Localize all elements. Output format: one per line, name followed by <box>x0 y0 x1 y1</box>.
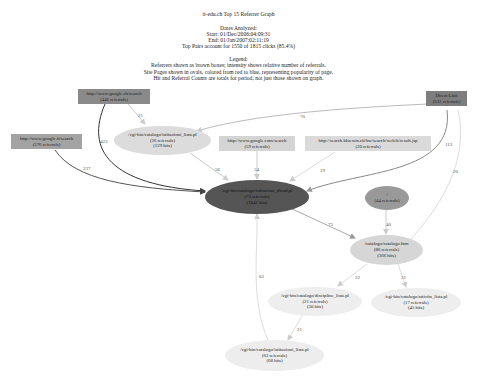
edge-label: 423 <box>100 139 108 144</box>
edge-label: 22 <box>355 275 360 280</box>
edge-label: 56 <box>215 167 220 172</box>
edge-label: 54 <box>254 167 259 172</box>
referrer-google-com[interactable]: http://www.google.com/search (59 referra… <box>219 136 295 151</box>
page-attivita-lista[interactable]: /cgi-bin/catalogo/attivita_lista.pl (17 … <box>371 288 461 317</box>
edge-direct-to-catalogo <box>404 110 461 246</box>
page-discipline-lista[interactable]: /cgi-bin/catalogo/discipline_lista.pl (2… <box>268 287 362 316</box>
edge-label: 113 <box>445 142 452 147</box>
referrer-count: (531 referrals) <box>433 99 461 105</box>
page-istituzioni-dicad[interactable]: /cgi-bin/catalogo/istituzioni_dicad.pl (… <box>205 180 309 214</box>
edge-catalogo-to-discipline <box>338 264 367 286</box>
referrer-google-it[interactable]: http://www.google.it/search (276 referra… <box>11 134 82 149</box>
referrer-google-ch[interactable]: http://www.google.ch/search (446 referra… <box>78 89 150 104</box>
edge-label: 73 <box>328 222 333 227</box>
page-root[interactable]: / (44 referrals) <box>365 186 409 210</box>
edge-istituzioni-lista-to-dicad <box>190 153 228 180</box>
page-hits: (45 hits) <box>408 305 424 311</box>
edge-direct-to-istituzioni-lista <box>197 104 428 131</box>
referrer-count: (59 referrals) <box>244 144 269 150</box>
referrer-count: (446 referrals) <box>100 97 128 103</box>
page-hits: (30 hits) <box>307 304 323 310</box>
page-hits: (68 hits) <box>266 358 282 364</box>
page-istituzioni-lista[interactable]: /cgi-bin/catalogo/istituzioni_lista.pl (… <box>114 126 211 155</box>
edge-label: 62 <box>259 274 264 279</box>
referrer-direct-link[interactable]: Direct Link (531 referrals) <box>426 91 467 106</box>
edge-dicad-to-catalogo <box>290 208 355 238</box>
edge-label: 40 <box>386 222 391 227</box>
edge-label: 21 <box>297 327 302 332</box>
edge-label: 20 <box>453 169 458 174</box>
edge-bluewin-to-dicad <box>290 152 335 181</box>
page-hits: (366 hits) <box>377 253 396 259</box>
page-catalogo[interactable]: /catalogo/catalogo.htm (86 referrals) (3… <box>350 235 423 265</box>
page-hits: (129 hits) <box>153 143 172 149</box>
referrer-bluewin[interactable]: http://search.bluewin.ch/bw/search/web/i… <box>305 136 431 151</box>
referrer-count: (276 referrals) <box>33 142 61 148</box>
edge-label: 19 <box>320 168 325 173</box>
page-istituzioni-lista-2[interactable]: /cgi-bin/catalogo/istituzioni_lista.pl (… <box>225 340 324 371</box>
edge-google-it-to-dicad <box>55 150 205 192</box>
edge-label: 21 <box>138 113 143 118</box>
edge-label: 237 <box>83 166 91 171</box>
page-hits: (1042 hits) <box>247 200 268 206</box>
edge-label: 31 <box>401 275 406 280</box>
edge-label: 70 <box>300 114 305 119</box>
page-referrals: (44 referrals) <box>374 198 399 204</box>
referrer-count: (20 referrals) <box>355 144 380 150</box>
